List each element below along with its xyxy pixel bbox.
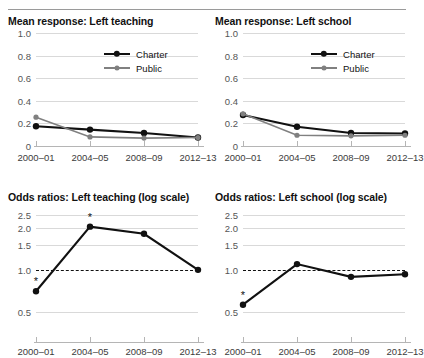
x-axis-line [241, 342, 411, 343]
data-point [240, 111, 245, 116]
x-axis-tick-label: 2000–01 [225, 152, 262, 163]
x-axis-tick-mark [36, 337, 37, 342]
x-axis-tick-mark [144, 337, 145, 342]
panel-title: Mean response: Left teaching [8, 15, 153, 27]
y-axis-tick-label: 0.2 [225, 118, 238, 129]
legend-dot-marker [114, 51, 120, 57]
chart-legend: CharterPublic [104, 47, 168, 75]
panel-title: Odds ratios: Left school (log scale) [215, 191, 387, 203]
x-axis-tick-label: 2008–09 [333, 346, 370, 357]
panel-mean-response-left-teaching: Mean response: Left teaching 00.20.40.60… [0, 14, 207, 190]
y-axis-tick-label: 2.5 [225, 209, 238, 220]
y-axis-tick-label: 0.5 [225, 306, 238, 317]
legend-line-swatch [104, 67, 130, 69]
x-axis-line [241, 146, 411, 147]
x-axis-tick-label: 2012–13 [387, 346, 424, 357]
data-point [195, 135, 200, 140]
data-point [33, 288, 39, 294]
data-point [141, 135, 146, 140]
legend-line-swatch [311, 53, 337, 55]
x-axis-tick-mark [297, 337, 298, 342]
y-axis-tick-label: 1.5 [225, 240, 238, 251]
x-axis-tick-mark [405, 337, 406, 342]
data-point [240, 302, 246, 308]
legend-dot-marker [322, 66, 327, 71]
data-point [402, 271, 408, 277]
data-point [33, 123, 39, 129]
legend-item-public[interactable]: Public [311, 61, 375, 75]
legend-line-swatch [311, 67, 337, 69]
x-axis-tick-label: 2008–09 [126, 346, 163, 357]
x-axis-tick-label: 2000–01 [225, 346, 262, 357]
x-axis-tick-label: 2012–13 [387, 152, 424, 163]
x-axis-tick-label: 2000–01 [18, 152, 55, 163]
y-axis-tick-label: 0.6 [225, 73, 238, 84]
x-axis-tick-label: 2004–05 [279, 152, 316, 163]
legend-dot-marker [321, 51, 327, 57]
data-point [33, 115, 38, 120]
x-axis-tick-mark [198, 337, 199, 342]
panel-title: Odds ratios: Left teaching (log scale) [8, 191, 189, 203]
y-axis-tick-label: 0.4 [225, 95, 238, 106]
x-axis-tick-label: 2008–09 [126, 152, 163, 163]
panel-mean-response-left-school: Mean response: Left school 00.20.40.60.8… [207, 14, 413, 190]
y-axis-tick-label: 2.0 [225, 223, 238, 234]
data-point [348, 274, 354, 280]
x-axis-tick-label: 2008–09 [333, 152, 370, 163]
y-axis-tick-label: 1.5 [18, 240, 31, 251]
x-axis-tick-label: 2004–05 [72, 152, 109, 163]
x-axis-tick-mark [351, 337, 352, 342]
data-point [195, 267, 201, 273]
plot-area: 00.20.40.60.81.02000–012004–052008–09201… [243, 33, 405, 146]
legend-item-charter[interactable]: Charter [311, 47, 375, 61]
legend-item-charter[interactable]: Charter [104, 47, 168, 61]
y-axis-tick-label: 0.8 [225, 50, 238, 61]
y-axis-tick-label: 2.5 [18, 209, 31, 220]
x-axis-tick-label: 2004–05 [279, 346, 316, 357]
figure-panel-grid: Mean response: Left teaching 00.20.40.60… [0, 14, 413, 358]
data-point [87, 223, 93, 229]
legend-line-swatch [104, 53, 130, 55]
data-point [87, 126, 93, 132]
x-axis-tick-mark [198, 141, 199, 146]
chart-legend: CharterPublic [311, 47, 375, 75]
x-axis-line [34, 146, 204, 147]
x-axis-line [34, 342, 204, 343]
series-line [36, 126, 198, 137]
data-point [348, 133, 353, 138]
legend-dot-marker [115, 66, 120, 71]
x-axis-tick-mark [405, 141, 406, 146]
y-axis-tick-label: 0 [233, 141, 238, 152]
legend-label: Public [136, 63, 162, 74]
y-axis-tick-label: 0.6 [18, 73, 31, 84]
series-line [243, 264, 405, 305]
plot-area: 0.51.01.52.02.52000–012004–052008–092012… [36, 209, 198, 322]
y-axis-tick-label: 2.0 [18, 223, 31, 234]
y-axis-tick-label: 0.4 [18, 95, 31, 106]
data-point [402, 133, 407, 138]
legend-label: Charter [136, 49, 168, 60]
data-point [294, 124, 300, 130]
x-axis-tick-mark [90, 337, 91, 342]
plot-area: 00.20.40.60.81.02000–012004–052008–09201… [36, 33, 198, 146]
panel-title: Mean response: Left school [215, 15, 351, 27]
x-axis-tick-mark [243, 337, 244, 342]
series-line [36, 227, 198, 292]
panel-odds-ratios-left-teaching: Odds ratios: Left teaching (log scale) 0… [0, 190, 207, 358]
series-layer: * [243, 209, 405, 322]
data-point [141, 130, 147, 136]
y-axis-tick-label: 0.8 [18, 50, 31, 61]
data-point [294, 133, 299, 138]
y-axis-tick-label: 1.0 [225, 28, 238, 39]
y-axis-tick-label: 0.5 [18, 306, 31, 317]
series-layer: ** [36, 209, 198, 322]
significance-marker: * [241, 289, 246, 301]
data-point [294, 261, 300, 267]
y-axis-tick-label: 0 [26, 141, 31, 152]
legend-label: Charter [343, 49, 375, 60]
legend-item-public[interactable]: Public [104, 61, 168, 75]
data-point [87, 134, 92, 139]
y-axis-tick-label: 1.0 [18, 28, 31, 39]
top-divider-rule [8, 9, 406, 10]
x-axis-tick-label: 2004–05 [72, 346, 109, 357]
